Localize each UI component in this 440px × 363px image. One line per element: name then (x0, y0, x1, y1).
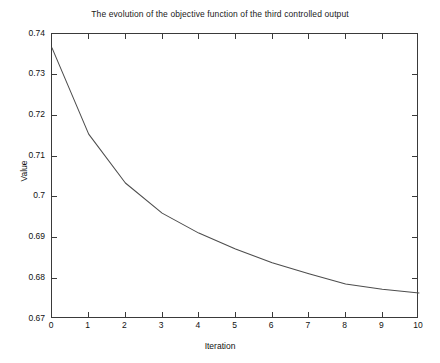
y-tick-mark (52, 237, 57, 238)
y-tick-mark (52, 115, 57, 116)
x-axis-title: Iteration (0, 341, 440, 351)
x-tick-mark (235, 312, 236, 317)
y-tick-mark-right (412, 196, 417, 197)
x-tick-mark-top (162, 34, 163, 39)
x-tick-label: 3 (146, 321, 176, 330)
y-tick-mark (52, 196, 57, 197)
x-tick-mark (125, 312, 126, 317)
x-tick-label: 8 (330, 321, 360, 330)
y-tick-mark-right (412, 278, 417, 279)
chart-figure: The evolution of the objective function … (0, 0, 440, 363)
x-tick-mark-top (345, 34, 346, 39)
y-tick-label: 0.68 (0, 273, 45, 282)
y-tick-label: 0.74 (0, 29, 45, 38)
x-tick-mark (198, 312, 199, 317)
x-tick-label: 1 (73, 321, 103, 330)
x-tick-label: 4 (183, 321, 213, 330)
x-tick-mark-top (198, 34, 199, 39)
x-tick-mark-top (272, 34, 273, 39)
x-tick-label: 10 (403, 321, 433, 330)
chart-title: The evolution of the objective function … (0, 9, 440, 19)
x-tick-label: 6 (256, 321, 286, 330)
x-tick-label: 2 (109, 321, 139, 330)
x-tick-mark-top (308, 34, 309, 39)
y-tick-mark (52, 278, 57, 279)
x-tick-mark-top (125, 34, 126, 39)
x-tick-mark-top (235, 34, 236, 39)
x-tick-mark (345, 312, 346, 317)
y-axis-title: Value (19, 141, 29, 201)
y-tick-label: 0.73 (0, 69, 45, 78)
y-tick-mark-right (412, 156, 417, 157)
x-tick-mark (308, 312, 309, 317)
y-tick-mark-right (412, 237, 417, 238)
y-tick-mark-right (412, 115, 417, 116)
x-tick-label: 0 (36, 321, 66, 330)
x-tick-mark (162, 312, 163, 317)
x-tick-mark (88, 312, 89, 317)
x-tick-label: 5 (220, 321, 250, 330)
y-tick-mark-right (412, 74, 417, 75)
x-axis-tick-labels: 012345678910 (0, 321, 440, 335)
y-tick-mark (52, 74, 57, 75)
y-tick-label: 0.72 (0, 110, 45, 119)
y-tick-label: 0.69 (0, 232, 45, 241)
y-tick-mark (52, 156, 57, 157)
x-tick-mark-top (88, 34, 89, 39)
x-tick-label: 7 (293, 321, 323, 330)
x-tick-mark-top (382, 34, 383, 39)
data-line-series (52, 34, 419, 319)
x-tick-mark (382, 312, 383, 317)
series-objective-line (52, 48, 419, 293)
x-tick-label: 9 (366, 321, 396, 330)
plot-area (51, 33, 418, 318)
x-tick-mark (272, 312, 273, 317)
